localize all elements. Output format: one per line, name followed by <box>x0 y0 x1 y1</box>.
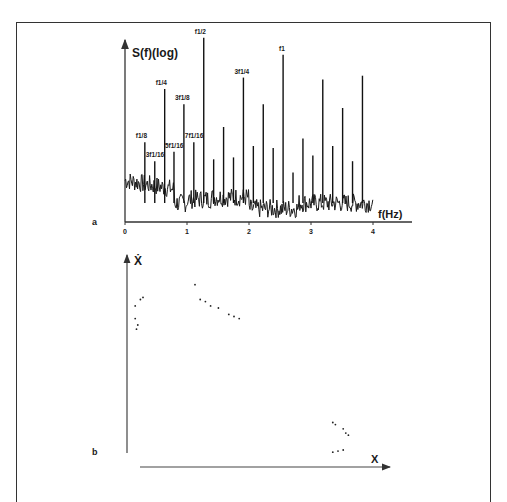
phase-point <box>142 297 144 299</box>
phase-point <box>134 318 136 320</box>
x-tick-label: 3 <box>309 228 313 235</box>
phase-point <box>199 299 201 301</box>
x-tick-label: 4 <box>371 228 375 235</box>
x-axis-label-a: f(Hz) <box>378 208 403 220</box>
phase-point <box>345 432 347 434</box>
x-tick-label: 0 <box>123 228 127 235</box>
peak-label: f1/2 <box>195 28 207 35</box>
phase-point <box>228 314 230 316</box>
phase-point <box>210 305 212 307</box>
phase-point <box>348 434 350 436</box>
phase-point <box>136 328 138 330</box>
phase-point <box>137 324 139 326</box>
y-axis-label-a: S(f)(log) <box>132 46 178 60</box>
peak-label: f1/8 <box>136 132 148 139</box>
phase-point <box>194 284 196 286</box>
peak-label: f1/4 <box>156 79 168 86</box>
phase-points <box>134 284 349 453</box>
phase-point <box>332 422 334 424</box>
phase-point <box>335 424 337 426</box>
panel-label-a: a <box>92 217 98 227</box>
peak-label: f1 <box>279 45 285 52</box>
peak-label: 3f1/4 <box>234 68 249 75</box>
phase-point <box>233 316 235 318</box>
peak-label: 3f1/16 <box>146 151 165 158</box>
peak-label: 7f1/16 <box>185 132 204 139</box>
phase-point <box>337 450 339 452</box>
phase-point <box>342 428 344 430</box>
x-tick-label: 1 <box>185 228 189 235</box>
panel-label-b: b <box>92 447 98 457</box>
x-ticks-a: 01234 <box>123 222 375 235</box>
spectrum-line <box>125 174 373 218</box>
peak-label: 3f1/8 <box>175 94 190 101</box>
panel-b-phase-portrait: Ẋ X b <box>92 253 390 467</box>
x-axis-label-b: X <box>371 453 379 465</box>
x-tick-label: 2 <box>247 228 251 235</box>
spectrum-peaks <box>145 38 363 203</box>
peak-label: 5f1/16 <box>165 142 184 149</box>
phase-point <box>218 307 220 309</box>
phase-point <box>140 299 142 301</box>
phase-point <box>342 449 344 451</box>
phase-point <box>238 318 240 320</box>
phase-point <box>134 305 136 307</box>
y-axis-label-b: Ẋ <box>134 253 142 268</box>
phase-point <box>332 451 334 453</box>
panel-a-spectrum: S(f)(log) f(Hz) a 01234 f1/83f1/16f1/45f… <box>92 28 412 235</box>
phase-point <box>205 301 207 303</box>
